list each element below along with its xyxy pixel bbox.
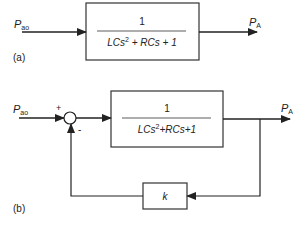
panel-label-b: (b) (13, 203, 25, 214)
forward-transfer-function-block (111, 91, 223, 147)
plus-sign: + (56, 103, 61, 113)
panel-b: Pao + - 1 LCs2+RCs+1 PA k (b) (13, 91, 293, 214)
input-label-b: Pao (13, 103, 28, 116)
numerator-a: 1 (139, 16, 145, 27)
input-label-a: Pao (14, 18, 29, 31)
denominator-b: LCs2+RCs+1 (138, 123, 196, 135)
block-diagram: Pao 1 LCs2 + RCs + 1 PA (a) Pao + - 1 LC… (0, 0, 308, 226)
denominator-a: LCs2 + RCs + 1 (107, 36, 177, 48)
minus-sign: - (78, 124, 81, 135)
gain-k: k (163, 191, 169, 202)
panel-a: Pao 1 LCs2 + RCs + 1 PA (a) (13, 3, 261, 63)
transfer-function-block-a (86, 3, 199, 60)
numerator-b: 1 (164, 103, 170, 114)
output-label-b: PA (281, 102, 293, 115)
panel-label-a: (a) (13, 52, 25, 63)
output-label-a: PA (249, 16, 261, 29)
feedback-path-left (71, 124, 143, 196)
summing-junction (64, 112, 76, 124)
